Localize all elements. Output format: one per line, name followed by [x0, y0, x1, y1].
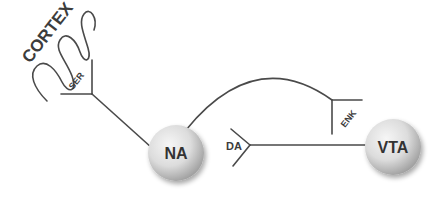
na-label: NA: [164, 145, 188, 162]
ser-axon: [92, 94, 152, 148]
neural-pathway-diagram: CORTEX SER ENK DA NA VTA: [0, 0, 445, 205]
enk-label: ENK: [339, 108, 359, 130]
da-label: DA: [226, 140, 242, 152]
ser-label: SER: [67, 70, 87, 91]
vta-label: VTA: [378, 139, 409, 156]
cortex-label: CORTEX: [18, 0, 77, 66]
enk-axon: [186, 78, 332, 130]
